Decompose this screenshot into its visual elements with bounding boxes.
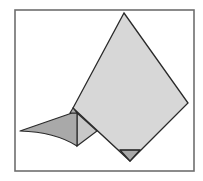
folded-kite-diagram [0,0,203,181]
bottom-tip-fold [120,150,140,161]
folded-wing-flap [20,113,77,146]
kite-main-face [73,13,188,161]
